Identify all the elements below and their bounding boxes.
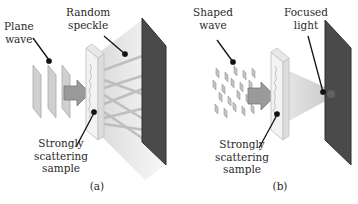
plane-wave-label: Plane wave	[4, 20, 34, 45]
panel-a-plane-wave-speckle: Plane wave Random speckle Strongly scatt…	[0, 0, 179, 204]
scattering-sample	[271, 52, 283, 140]
focus-light-cone	[287, 70, 331, 122]
scattering-sample	[86, 48, 98, 140]
shaped-wave-label: Shaped wave	[193, 6, 233, 31]
panel-b-shaped-wave-focus: Shaped wave Focused light Strongly scatt…	[179, 0, 358, 204]
caption-b: (b)	[265, 180, 295, 192]
caption-a: (a)	[82, 180, 112, 192]
focused-light-label: Focused light	[284, 6, 328, 31]
scattering-sample-label: Strongly scattering sample	[215, 138, 269, 176]
random-speckle-label: Random speckle	[66, 6, 110, 31]
speckle-screen	[142, 18, 166, 165]
scattering-sample-label: Strongly scattering sample	[34, 137, 88, 175]
